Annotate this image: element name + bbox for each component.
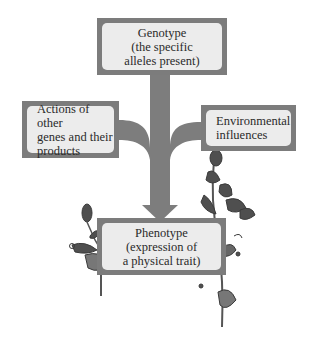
actions-box-inner: Actions of other genes and their product… bbox=[27, 106, 114, 153]
phenotype-title: Phenotype bbox=[135, 226, 188, 240]
environment-line2: influences bbox=[216, 128, 291, 142]
main-stem-arrow bbox=[150, 75, 170, 207]
genotype-desc-line2: alleles present) bbox=[124, 54, 199, 68]
phenotype-box: Phenotype (expression of a physical trai… bbox=[97, 218, 226, 275]
phenotype-desc-line2: a physical trait) bbox=[123, 254, 201, 268]
phenotype-desc-line1: (expression of bbox=[126, 240, 197, 254]
environment-box-inner: Environmental influences bbox=[206, 110, 291, 146]
actions-line3: products bbox=[37, 144, 114, 158]
genotype-phenotype-diagram: Genotype (the specific alleles present) … bbox=[0, 0, 316, 351]
actions-of-other-genes-box: Actions of other genes and their product… bbox=[22, 101, 119, 158]
phenotype-box-inner: Phenotype (expression of a physical trai… bbox=[102, 223, 221, 270]
actions-line2: genes and their bbox=[37, 130, 114, 144]
actions-line1: Actions of other bbox=[37, 102, 114, 130]
environment-line1: Environmental bbox=[216, 114, 291, 128]
genotype-box: Genotype (the specific alleles present) bbox=[97, 18, 227, 75]
environmental-influences-box: Environmental influences bbox=[201, 105, 296, 151]
genotype-box-inner: Genotype (the specific alleles present) bbox=[102, 23, 222, 70]
genotype-title: Genotype bbox=[138, 26, 187, 40]
genotype-desc-line1: (the specific bbox=[131, 40, 192, 54]
